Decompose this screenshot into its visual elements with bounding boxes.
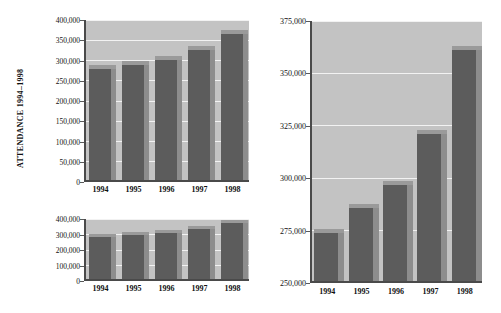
plot-area-bottom-left [84, 219, 249, 281]
y-axis-tick-label: 250,000 [0, 76, 80, 85]
x-axis-tick-label: 1995 [345, 287, 379, 296]
x-axis-tick-label: 1996 [150, 185, 183, 194]
bar-top-shading [417, 130, 447, 134]
bar-side-shading [243, 223, 248, 279]
y-axis-tick-label: 250,000 [255, 279, 306, 288]
y-axis-tickmark [80, 20, 84, 21]
bar-top-shading [349, 204, 379, 208]
bar-1995 [349, 208, 373, 281]
bar-1998 [452, 50, 476, 281]
bar-1997 [417, 134, 441, 281]
bar-top-shading [188, 46, 215, 50]
y-axis-tick-label: 350,000 [255, 69, 306, 78]
x-axis-tick-label: 1998 [216, 284, 249, 293]
y-axis-tickmark [80, 182, 84, 183]
y-axis-tickmark [80, 162, 84, 163]
y-axis-tickmark [306, 21, 310, 22]
y-axis-tickmark [80, 250, 84, 251]
y-axis-tick-label: 200,000 [0, 97, 80, 106]
x-axis-tick-label: 1994 [310, 287, 344, 296]
bar-side-shading [373, 208, 379, 281]
bar-1996 [155, 233, 177, 279]
x-axis-tick-label: 1997 [183, 284, 216, 293]
y-axis-tickmark [80, 121, 84, 122]
bar-series [86, 20, 249, 180]
bar-side-shading [476, 50, 482, 281]
y-axis-tick-label: 50,000 [0, 157, 80, 166]
bar-1995 [122, 65, 144, 180]
y-axis-tickmark [306, 178, 310, 179]
x-axis-tick-label: 1994 [84, 284, 117, 293]
plot-area-top-left [84, 20, 249, 182]
y-axis-tickmark [80, 219, 84, 220]
bar-side-shading [144, 65, 149, 180]
y-axis-tickmark [306, 231, 310, 232]
chart-top-left: ATTENDANCE 1994–1998 050,000100,000150,0… [0, 0, 260, 200]
y-axis-tick-label: 300,000 [0, 230, 80, 239]
bar-top-shading [188, 226, 215, 229]
y-axis-tickmark [80, 101, 84, 102]
y-axis-tick-label: 350,000 [0, 36, 80, 45]
y-axis-tickmark [80, 266, 84, 267]
bar-1996 [383, 185, 407, 281]
x-axis-tick-label: 1994 [84, 185, 117, 194]
bar-top-shading [155, 56, 182, 60]
y-axis-tick-label: 300,000 [0, 56, 80, 65]
y-axis-tickmark [80, 142, 84, 143]
bar-top-shading [155, 230, 182, 233]
bar-side-shading [441, 134, 447, 281]
bar-top-shading [452, 46, 482, 50]
x-axis-tick-label: 1998 [216, 185, 249, 194]
y-axis-tick-label: 400,000 [0, 16, 80, 25]
bar-1998 [221, 223, 243, 279]
bar-side-shading [144, 235, 149, 279]
y-axis-tick-label: 400,000 [0, 215, 80, 224]
y-axis-tick-label: 200,000 [0, 246, 80, 255]
bar-1997 [188, 50, 210, 180]
bar-side-shading [111, 69, 116, 180]
figure-canvas: ATTENDANCE 1994–1998 050,000100,000150,0… [0, 0, 501, 313]
y-axis-tick-label: 100,000 [0, 261, 80, 270]
bar-side-shading [177, 233, 182, 279]
bar-side-shading [210, 50, 215, 180]
y-axis-tick-label: 275,000 [255, 226, 306, 235]
y-axis-tickmark [306, 283, 310, 284]
y-axis-tickmark [80, 235, 84, 236]
x-axis-tick-label: 1996 [150, 284, 183, 293]
y-axis-tick-label: 100,000 [0, 137, 80, 146]
bar-side-shading [111, 237, 116, 279]
y-axis-tickmark [80, 81, 84, 82]
bar-top-shading [383, 181, 413, 185]
y-axis-tickmark [306, 126, 310, 127]
x-axis-tick-label: 1995 [117, 185, 150, 194]
bar-top-shading [89, 234, 116, 237]
bar-1997 [188, 229, 210, 279]
y-axis-tickmark [80, 281, 84, 282]
bar-top-shading [122, 61, 149, 65]
bar-1994 [89, 69, 111, 180]
x-axis-tick-label: 1997 [183, 185, 216, 194]
bar-1994 [89, 237, 111, 279]
y-axis-tickmark [80, 61, 84, 62]
x-axis-tick-label: 1995 [117, 284, 150, 293]
bar-top-shading [122, 232, 149, 235]
bar-side-shading [210, 229, 215, 279]
bar-side-shading [177, 60, 182, 180]
bar-series [86, 219, 249, 279]
y-axis-tick-label: 0 [0, 178, 80, 187]
bar-side-shading [243, 34, 248, 180]
bar-top-shading [221, 220, 248, 223]
x-axis-tick-label: 1996 [379, 287, 413, 296]
bar-top-shading [221, 30, 248, 34]
y-axis-tick-label: 0 [0, 277, 80, 286]
bar-1998 [221, 34, 243, 180]
bar-1996 [155, 60, 177, 180]
plot-area-right [310, 21, 482, 283]
bar-top-shading [89, 65, 116, 69]
y-axis-tickmark [80, 40, 84, 41]
y-axis-tick-label: 150,000 [0, 117, 80, 126]
bar-1995 [122, 235, 144, 279]
y-axis-tick-label: 300,000 [255, 174, 306, 183]
bar-1994 [314, 233, 338, 281]
chart-bottom-left: 0100,000200,000300,000400,000 1994199519… [0, 205, 260, 313]
